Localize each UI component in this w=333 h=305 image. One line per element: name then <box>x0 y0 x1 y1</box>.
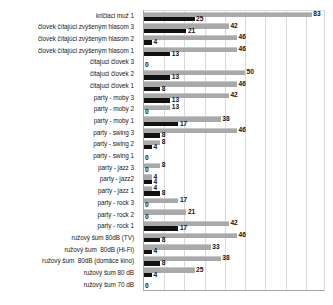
category-label: čitajuci človek 2 <box>0 69 138 81</box>
category-label: človek čítajúci zvýšeným hlasom 3 <box>0 22 138 34</box>
bar-line-gray: 83 <box>144 12 324 16</box>
bar-line-black: 4 <box>144 250 324 254</box>
bar-value-label: 0 <box>145 109 149 116</box>
bar-line-black: 21 <box>144 29 324 33</box>
bar-black <box>144 122 178 126</box>
bar-value-label: 17 <box>180 225 187 232</box>
bar-value-label: 0 <box>145 283 149 290</box>
category-label: party - jazz2 <box>0 174 138 186</box>
category-label: party - jazz 1 <box>0 186 138 198</box>
bar-group: 4221 <box>144 23 324 35</box>
category-label: party - rock 2 <box>0 209 138 221</box>
bar-black <box>144 261 160 265</box>
bar-line-gray: 42 <box>144 24 324 28</box>
bar-line-gray: 17 <box>144 198 324 202</box>
bar-group: 84 <box>144 139 324 151</box>
category-label: party - moby 3 <box>0 92 138 104</box>
bar-line-gray: 25 <box>144 268 324 272</box>
bar-group: 388 <box>144 255 324 267</box>
bar-line-gray: 8 <box>144 140 324 144</box>
bar-value-label: 21 <box>188 28 195 35</box>
horizontal-bar-chart: kričiaci muž 1človek čítajúci zvýšeným h… <box>0 0 333 305</box>
bar-value-label: 4 <box>154 144 158 151</box>
category-label: ružový šum 80 dB <box>0 267 138 279</box>
bar-line-gray <box>144 59 324 63</box>
bar-line-black: 13 <box>144 98 324 102</box>
category-label: ružový šum 80dB (Hi-Fi) <box>0 244 138 256</box>
bar-line-black: 8 <box>144 261 324 265</box>
bar-black <box>144 87 160 91</box>
bar-line-black: 25 <box>144 17 324 21</box>
bar-line-black: 8 <box>144 133 324 137</box>
category-label: party - jazz 3 <box>0 162 138 174</box>
bar-value-label: 0 <box>145 62 149 69</box>
bar-value-label: 0 <box>145 202 149 209</box>
bar-line-gray: 38 <box>144 256 324 260</box>
bar-group: 468 <box>144 232 324 244</box>
bar-line-gray <box>144 152 324 156</box>
bar-black <box>144 180 152 184</box>
bar-black <box>144 226 178 230</box>
bar-black <box>144 52 170 56</box>
bar-group: 0 <box>144 278 324 290</box>
bar-group: 130 <box>144 104 324 116</box>
bar-black <box>144 191 160 195</box>
bar-line-gray: 21 <box>144 210 324 214</box>
bar-group: 464 <box>144 34 324 46</box>
bar-line-black: 4 <box>144 40 324 44</box>
bar-group: 5013 <box>144 69 324 81</box>
bar-line-black: 0 <box>144 110 324 114</box>
bar-value-label: 8 <box>162 190 166 197</box>
bar-line-gray: 4 <box>144 175 324 179</box>
bar-black <box>144 75 170 79</box>
category-label: čitajuci človek 1 <box>0 80 138 92</box>
bar-value-label: 0 <box>145 214 149 221</box>
bar-line-black: 8 <box>144 191 324 195</box>
bar-black <box>144 133 160 137</box>
bar-value-label: 0 <box>145 167 149 174</box>
category-label-column: kričiaci muž 1človek čítajúci zvýšeným h… <box>0 10 138 291</box>
bar-line-black: 4 <box>144 273 324 277</box>
bar-value-label: 4 <box>154 272 158 279</box>
bar-group: 80 <box>144 162 324 174</box>
bar-group: 0 <box>144 151 324 163</box>
bar-line-gray: 8 <box>144 163 324 167</box>
category-label: party - rock 3 <box>0 197 138 209</box>
category-label: party - moby 1 <box>0 115 138 127</box>
bar-line-gray <box>144 280 324 284</box>
bar-group: 4613 <box>144 46 324 58</box>
bar-value-label: 25 <box>196 16 203 23</box>
bar-value-label: 13 <box>172 74 179 81</box>
category-label: party - swing 2 <box>0 139 138 151</box>
bar-line-gray: 46 <box>144 128 324 132</box>
bar-line-gray: 46 <box>144 35 324 39</box>
category-label: človek čítajúci zvýšeným hlasom 1 <box>0 45 138 57</box>
category-label: človek čítajúci zvýšeným hlasom 2 <box>0 33 138 45</box>
bar-line-black: 4 <box>144 180 324 184</box>
category-label: ružový šum 70 dB <box>0 279 138 291</box>
bar-value-label: 4 <box>154 39 158 46</box>
category-label: kričiaci muž 1 <box>0 10 138 22</box>
category-label: ružový šum 80dB (domáce kino) <box>0 256 138 268</box>
bar-line-black: 13 <box>144 75 324 79</box>
bar-black <box>144 250 152 254</box>
bar-line-black: 0 <box>144 203 324 207</box>
bar-black <box>144 17 195 21</box>
bar-line-gray: 42 <box>144 221 324 225</box>
bar-line-black: 0 <box>144 64 324 68</box>
bar-black <box>144 98 170 102</box>
bar-line-gray: 46 <box>144 82 324 86</box>
bar-group: 170 <box>144 197 324 209</box>
bar-value-label: 4 <box>154 248 158 255</box>
bar-group: 3817 <box>144 116 324 128</box>
bar-group: 468 <box>144 127 324 139</box>
bar-line-gray: 4 <box>144 187 324 191</box>
bar-line-black: 8 <box>144 238 324 242</box>
category-label: ružový šum 80dB (TV) <box>0 232 138 244</box>
bar-line-gray: 38 <box>144 117 324 121</box>
bar-line-black: 0 <box>144 157 324 161</box>
bar-line-black: 0 <box>144 168 324 172</box>
bar-value-label: 8 <box>162 260 166 267</box>
bar-rows: 8325422146446130501346842131303817468840… <box>144 11 324 290</box>
category-label: party - rock 1 <box>0 221 138 233</box>
